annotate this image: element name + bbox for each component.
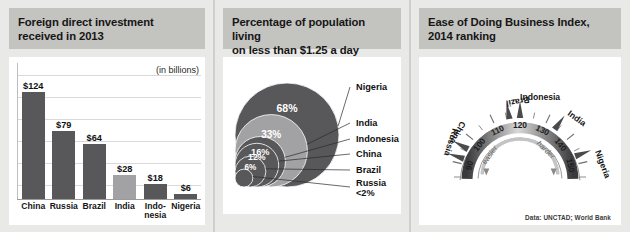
infographic-root: Foreign direct investment received in 20… [0,0,630,232]
bar-group: $28 [113,63,137,199]
bar-value-label: $64 [87,133,102,143]
bubble-value-label: 33% [261,129,281,140]
bar-chart-plot-area: (in billions) $124$79$64$28$18$6 ChinaRu… [9,57,205,225]
gauge-tick [466,134,473,140]
bar-group: $18 [143,63,167,199]
bar [52,131,75,199]
panel-title-fdi-line1: Foreign direct investment [18,16,154,28]
bar [83,144,106,199]
bar-category-label: India [110,202,140,211]
gauge-chart: 90100110120130140150easierharderRussiaCh… [419,57,621,225]
bubble-leader-line [338,87,350,126]
bubble-value-label: 12% [248,152,266,162]
gauge-marker-nigeria [574,150,591,159]
bubble-russia [235,169,253,187]
bubble-category-label-russia: Russia [356,178,387,188]
gauge-tick [490,115,494,123]
bubble-category-label: Brazil [356,165,381,175]
bar [22,92,45,199]
panel-title-poverty-line2: on less than $1.25 a day [232,44,359,56]
gauge-tick-label: 120 [513,120,527,130]
bar-chart-bars: $124$79$64$28$18$6 [18,63,201,199]
bubble-chart-plot-area: 68%33%16%12%6%NigeriaIndiaIndonesiaChina… [223,57,401,214]
gauge-tick [453,162,462,164]
panel-title-business-line2: 2014 ranking [428,30,496,42]
bar-chart-x-labels: ChinaRussiaBrazilIndiaIndo-nesiaNigeria [18,199,201,225]
gauge-tick [479,125,483,130]
gauge-tick [579,162,588,164]
bar-value-label: $6 [181,183,191,193]
gauge-direction-arrow [551,168,557,175]
bubble-chart: 68%33%16%12%6%NigeriaIndiaIndonesiaChina… [223,57,401,214]
gauge-marker-label: Indonesia [520,92,560,102]
gauge-marker-label: India [566,108,588,128]
bar-category-label: Indo-nesia [140,202,170,221]
gauge-tick [574,148,579,151]
data-credit: Data: UNCTAD; World Bank [525,214,611,221]
panel-poverty-percentage: Percentage of population living on less … [214,0,410,232]
bar-group: $6 [174,63,198,199]
gauge-chart-plot-area: 90100110120130140150easierharderRussiaCh… [419,57,621,225]
bar [113,175,136,199]
bar-category-label: Brazil [79,202,109,211]
bubble-category-label: India [356,118,378,128]
bubble-category-label: Nigeria [356,82,388,92]
bar-category-label: Nigeria [171,202,201,211]
panel-title-fdi: Foreign direct investment received in 20… [9,8,205,49]
bar-group: $64 [82,63,106,199]
gauge-tick [567,134,574,140]
bubble-value-label-russia: <2% [356,188,375,198]
bar-group: $124 [21,63,45,199]
bubble-value-label: 6% [245,163,258,172]
gauge-direction-arrow [483,168,489,175]
panel-title-poverty-line1: Percentage of population living [232,16,365,42]
gauge-tick-label: 150 [564,157,577,173]
bubble-category-label: China [356,149,382,159]
bubble-value-label: 68% [276,102,298,114]
panel-title-business: Ease of Doing Business Index, 2014 ranki… [419,8,621,49]
bar-value-label: $28 [117,164,132,174]
bar-category-label: Russia [49,202,79,211]
bar-category-label: China [18,202,48,211]
bar-chart: (in billions) $124$79$64$28$18$6 ChinaRu… [9,57,205,225]
panel-title-business-line1: Ease of Doing Business Index, [428,16,590,28]
panel-ease-of-doing-business: Ease of Doing Business Index, 2014 ranki… [410,0,630,232]
bar-value-label: $79 [56,120,71,130]
bubble-category-label: Indonesia [356,134,400,144]
panel-title-poverty: Percentage of population living on less … [223,8,401,49]
bar-value-label: $18 [148,173,163,183]
gauge-tick [533,113,534,119]
panel-foreign-direct-investment: Foreign direct investment received in 20… [0,0,214,232]
bar-group: $79 [52,63,76,199]
gauge-marker-label: Nigeria [593,149,613,180]
panel-title-fdi-line2: received in 2013 [18,30,104,42]
gauge-tick [546,115,550,123]
bar-value-label: $124 [23,81,43,91]
bar [144,184,167,199]
